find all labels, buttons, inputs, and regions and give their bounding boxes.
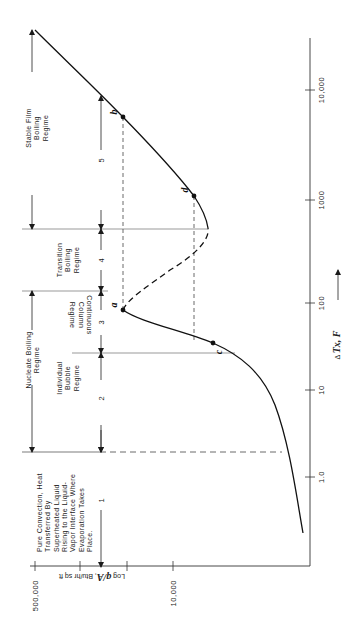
- point-a-label: a: [108, 303, 119, 308]
- x-tick-label-10000: 10,000: [317, 77, 326, 104]
- regime-1-text: Pure Convection, Heat Transferred By Sup…: [36, 473, 93, 552]
- svg-text:Column: Column: [78, 302, 85, 329]
- x-tick-label-100: 100: [317, 296, 326, 310]
- x-tick-labels: 10,000 1000 100 10 1.0: [317, 77, 326, 483]
- point-d-label: d: [179, 187, 190, 193]
- svg-text:Transition: Transition: [56, 243, 63, 277]
- x-axis-label: Δ Tx, F: [331, 330, 342, 359]
- svg-text:Regime: Regime: [42, 115, 50, 142]
- curve-transition-dashed: [123, 228, 208, 310]
- regime-number-1: 1: [97, 498, 106, 503]
- svg-text:Vapor Interface Where: Vapor Interface Where: [69, 474, 77, 552]
- x-tick-label-10: 10: [317, 385, 326, 395]
- svg-text:Stable Film: Stable Film: [25, 108, 32, 147]
- svg-text:Pure Convection, Heat: Pure Convection, Heat: [36, 473, 43, 552]
- svg-text:Boiling: Boiling: [33, 116, 41, 140]
- curve-film-solid: [35, 30, 208, 228]
- point-b: [121, 115, 126, 120]
- svg-text:Regime: Regime: [73, 365, 81, 392]
- point-a: [121, 308, 126, 313]
- regime-number-3: 3: [97, 320, 106, 325]
- continuous-column-text: Continuous Column Regime: [68, 295, 93, 335]
- svg-text:Continuous: Continuous: [86, 295, 93, 335]
- point-d: [192, 194, 197, 199]
- regime-number-4: 4: [97, 258, 106, 263]
- y-tick-label-10000: 10,000: [169, 580, 178, 607]
- boiling-curve-chart: 10,000 1000 100 10 1.0 500,000 10,000 Lo…: [0, 0, 349, 631]
- y-axis-label: Log q/A, Btu/hr sq ft: [59, 572, 125, 583]
- y-tick-label-500000: 500,000: [31, 580, 40, 611]
- point-c-label: c: [213, 349, 224, 354]
- svg-text:Transferred By: Transferred By: [44, 500, 52, 552]
- svg-text:Nucleate Boiling: Nucleate Boiling: [25, 332, 33, 389]
- svg-text:Regime: Regime: [68, 302, 76, 329]
- marked-points: a b c d: [108, 110, 224, 355]
- point-b-label: b: [108, 110, 119, 115]
- svg-text:Superheated Liquid: Superheated Liquid: [53, 484, 61, 552]
- svg-text:Regime: Regime: [73, 247, 81, 274]
- transition-boiling-text: Transition Boiling Regime: [56, 243, 81, 277]
- individual-bubble-text: Individual Bubble Regime: [56, 361, 81, 395]
- svg-text:Regime: Regime: [33, 347, 41, 374]
- svg-text:Rising to the Liquid-: Rising to the Liquid-: [61, 481, 69, 552]
- regime-number-2: 2: [97, 396, 106, 401]
- svg-text:Boiling: Boiling: [64, 248, 72, 272]
- boiling-curve: [35, 30, 303, 533]
- reference-lines: [123, 117, 194, 343]
- x-tick-label-1000: 1000: [317, 190, 326, 209]
- regime-number-5: 5: [97, 158, 106, 163]
- regime-numbers: 1 2 3 4 5: [97, 155, 106, 506]
- nucleate-boiling-text: Nucleate Boiling Regime: [25, 332, 41, 389]
- point-c: [211, 341, 216, 346]
- svg-text:Place.: Place.: [86, 530, 93, 552]
- x-tick-label-1: 1.0: [317, 471, 326, 483]
- y-tick-labels: 500,000 10,000: [31, 580, 178, 611]
- svg-text:Bubble: Bubble: [64, 366, 71, 390]
- stable-film-boiling-text: Stable Film Boiling Regime: [25, 108, 50, 147]
- svg-text:Individual: Individual: [56, 361, 63, 395]
- regime-texts: Pure Convection, Heat Transferred By Sup…: [25, 108, 93, 552]
- svg-text:Evaporation Takes: Evaporation Takes: [78, 488, 86, 552]
